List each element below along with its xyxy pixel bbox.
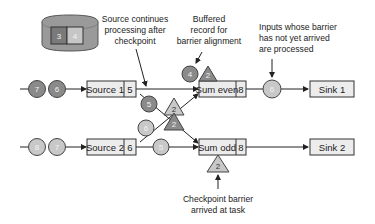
svg-text:6: 6 (127, 142, 132, 153)
svg-text:7: 7 (55, 143, 60, 152)
svg-text:8: 8 (35, 143, 40, 152)
annotation-buffered: Buffered record for barrier alignment (177, 14, 242, 63)
buffered-record: 4 (182, 66, 198, 82)
task-sink1: Sink 1 (310, 81, 354, 97)
record-even-to-sink: 6 (263, 80, 281, 98)
annotation-arrow (196, 52, 202, 63)
task-source2: Source 2 6 (86, 139, 136, 155)
checkpoint-barrier-alignment-diagram: 3 4 Source continues processing after ch… (0, 0, 375, 224)
svg-text:6: 6 (270, 85, 275, 94)
svg-text:Inputs whose barrier: Inputs whose barrier (259, 22, 337, 32)
svg-text:2: 2 (172, 120, 177, 129)
task-source1: Source 1 5 (86, 81, 136, 97)
svg-text:Source 1: Source 1 (86, 84, 124, 95)
svg-text:6: 6 (144, 124, 149, 133)
svg-text:7: 7 (35, 85, 40, 94)
task-sum-even: Sum even 8 (196, 81, 246, 97)
svg-text:Sum even: Sum even (196, 84, 239, 95)
svg-text:2: 2 (206, 71, 211, 80)
record-src2-to-odd: 5 (153, 139, 169, 155)
state-cell-1-text: 3 (57, 32, 62, 41)
annotation-inputs-processed: Inputs whose barrier has not yet arrived… (259, 22, 337, 77)
svg-text:processing after: processing after (104, 25, 165, 35)
svg-text:Sum odd: Sum odd (198, 142, 236, 153)
state-cell-2-text: 4 (73, 32, 78, 41)
svg-text:6: 6 (55, 85, 60, 94)
annotation-barrier-arrived: Checkpoint barrier arrived at task (183, 175, 253, 215)
record-src1-out: 5 (141, 96, 157, 112)
task-sum-odd: Sum odd 8 (198, 139, 246, 155)
barrier-at-sum-odd: 2 (207, 155, 229, 172)
svg-text:8: 8 (238, 142, 243, 153)
svg-text:Source continues: Source continues (102, 14, 168, 24)
svg-text:checkpoint: checkpoint (114, 36, 156, 46)
input-records-source1: 7 6 (29, 81, 66, 98)
svg-text:record for: record for (191, 25, 228, 35)
svg-text:5: 5 (159, 143, 164, 152)
state-store: 3 4 (42, 15, 98, 51)
svg-text:Sink 2: Sink 2 (319, 142, 345, 153)
svg-text:barrier alignment: barrier alignment (177, 36, 242, 46)
svg-text:5: 5 (147, 100, 152, 109)
svg-text:4: 4 (188, 70, 193, 79)
barrier-cross-lower: 2 (164, 113, 184, 130)
annotation-arrow (136, 49, 146, 86)
svg-text:8: 8 (238, 84, 243, 95)
svg-text:arrived at task: arrived at task (191, 205, 246, 215)
barrier-at-sum-even: 2 (199, 66, 217, 81)
svg-text:Checkpoint barrier: Checkpoint barrier (183, 194, 253, 204)
svg-text:has not yet arrived: has not yet arrived (259, 33, 330, 43)
svg-text:Buffered: Buffered (193, 14, 226, 24)
annotation-source-continues: Source continues processing after checkp… (102, 14, 168, 86)
input-records-source2: 8 7 (29, 139, 66, 156)
svg-text:5: 5 (127, 84, 132, 95)
task-sink2: Sink 2 (310, 139, 354, 155)
svg-text:Sink 1: Sink 1 (319, 84, 345, 95)
svg-text:2: 2 (216, 162, 221, 171)
record-src2-out: 6 (138, 120, 154, 136)
svg-text:Source 2: Source 2 (86, 142, 124, 153)
svg-text:are processed: are processed (259, 44, 314, 54)
